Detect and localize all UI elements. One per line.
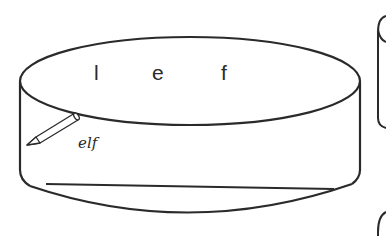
partial-cylinder-right-bottom	[378, 212, 386, 236]
cylinder-top-ellipse	[20, 37, 360, 125]
diagram-canvas: l e f elf	[0, 0, 386, 236]
cylinder-left-side	[20, 82, 30, 186]
handwritten-word: elf	[78, 134, 100, 152]
pencil-icon	[27, 112, 80, 145]
top-letter-f: f	[221, 61, 227, 84]
partial-cylinder-right-top	[378, 16, 386, 128]
writing-baseline	[46, 184, 334, 189]
cylinder-right-side	[352, 82, 360, 184]
top-letter-l: l	[94, 61, 99, 84]
top-letter-e: e	[152, 61, 164, 84]
